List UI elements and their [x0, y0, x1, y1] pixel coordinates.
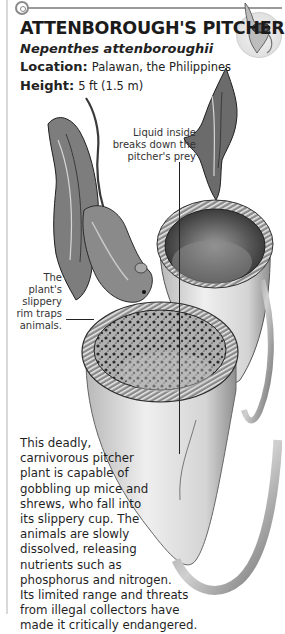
description-paragraph: This deadly, carnivorous pitcher plant i… — [20, 436, 180, 634]
fact-location-label: Location: — [20, 59, 88, 74]
fact-location-value: Palawan, the Philippines — [92, 60, 231, 74]
callout-rim-line: animals. — [8, 320, 62, 332]
callout-rim-line: rim traps — [8, 308, 62, 320]
fact-height-label: Height: — [20, 78, 74, 93]
callout-liquid-line: breaks down the — [96, 139, 196, 151]
description-line: shrews, who fall into — [20, 497, 180, 512]
leader-line-liquid — [179, 162, 180, 454]
description-line: its slippery cup. The — [20, 512, 180, 527]
fact-height-value: 5 ft (1.5 m) — [78, 79, 143, 93]
scientific-name: Nepenthes attenboroughii — [20, 41, 213, 56]
fact-location: Location:Palawan, the Philippines — [20, 59, 231, 74]
description-line: animals are slowly — [20, 527, 180, 542]
fact-height: Height:5 ft (1.5 m) — [20, 78, 143, 93]
callout-rim-line: The plant's — [8, 272, 62, 296]
description-line: This deadly, — [20, 436, 180, 451]
description-line: dissolved, releasing — [20, 542, 180, 557]
target-icon — [15, 1, 29, 15]
description-line: gobbling up mice and — [20, 482, 180, 497]
callout-liquid-line: Liquid inside — [96, 127, 196, 139]
description-line: plant is capable of — [20, 466, 180, 481]
callout-rim-line: slippery — [8, 296, 62, 308]
leader-line-rim — [66, 319, 94, 320]
description-line: phosphorus and nitrogen. — [20, 573, 180, 588]
callout-liquid: Liquid inside breaks down the pitcher's … — [96, 127, 196, 163]
callout-liquid-line: pitcher's prey — [96, 151, 196, 163]
description-line: carnivorous pitcher — [20, 451, 180, 466]
description-line: nutrients such as — [20, 558, 180, 573]
callout-rim: The plant's slippery rim traps animals. — [8, 272, 62, 332]
page-title: ATTENBOROUGH'S PITCHER — [20, 18, 285, 38]
description-line: Its limited range and threats — [20, 588, 180, 603]
description-line: from illegal collectors have — [20, 603, 180, 618]
description-line: made it critically endangered. — [20, 618, 180, 633]
